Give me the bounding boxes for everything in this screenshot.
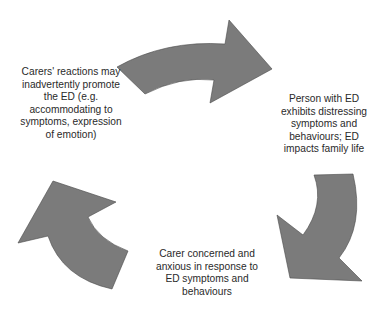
node-carer-concerned: Carer concerned and anxious in response …	[138, 248, 276, 298]
top-curved-arrow-icon	[117, 20, 272, 103]
right-curved-arrow-icon	[277, 174, 362, 281]
node-person-with-ed: Person with ED exhibits distressing symp…	[262, 93, 386, 156]
node-carer-reactions: Carers' reactions may inadvertently prom…	[2, 66, 140, 142]
cycle-diagram: Carers' reactions may inadvertently prom…	[0, 0, 386, 313]
left-curved-arrow-icon	[18, 181, 128, 289]
